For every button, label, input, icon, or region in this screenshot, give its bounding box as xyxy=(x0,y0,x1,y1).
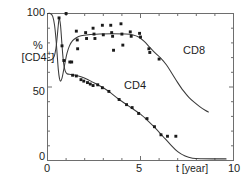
y-tick-100: 100 xyxy=(23,7,45,19)
y-tick-0: 0 xyxy=(23,151,45,163)
x-tick-10: 10 xyxy=(224,163,244,175)
series-label-cd4: CD4 xyxy=(124,80,146,92)
figure-cd4-cd8-plot: 100 50 0 % [CD4+] 0 5 10 t [year] CD8 CD… xyxy=(0,0,252,187)
series-label-cd8: CD8 xyxy=(183,45,205,57)
y-axis-title: % [CD4+] xyxy=(15,40,61,63)
y-tick-50: 50 xyxy=(23,86,45,98)
y-axis-title-cd4-prefix: [CD4 xyxy=(22,51,47,63)
data-points xyxy=(58,12,178,138)
y-axis-title-cd4-suffix: ] xyxy=(51,51,54,63)
x-tick-5: 5 xyxy=(130,163,148,175)
x-axis-title: t [year] xyxy=(176,163,208,174)
x-tick-0: 0 xyxy=(38,163,56,175)
y-axis-title-cd4: [CD4+] xyxy=(15,52,61,64)
